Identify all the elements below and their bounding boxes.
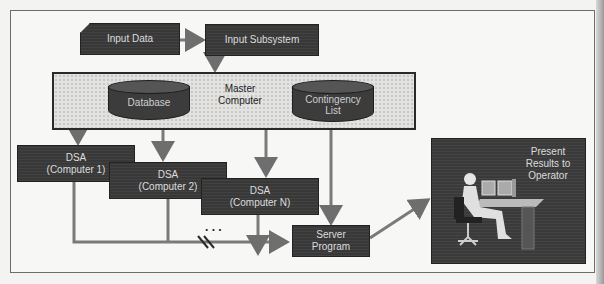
input-data-node: Input Data: [80, 23, 180, 55]
contingency-line1: Contingency: [292, 94, 374, 105]
server-line2: Program: [312, 241, 350, 253]
dsa1-line1: DSA: [66, 152, 87, 164]
dsa-computer-n-node: DSA (Computer N): [201, 178, 319, 215]
dsa1-line2: (Computer 1): [47, 164, 106, 176]
database-cylinder: Database: [108, 80, 190, 120]
dsa2-line1: DSA: [158, 169, 179, 181]
contingency-list-label: Contingency List: [292, 94, 374, 116]
operator-workstation-icon: [432, 139, 585, 263]
dsaN-line2: (Computer N): [230, 197, 291, 209]
dsa2-line2: (Computer 2): [139, 181, 198, 193]
operator-panel: Present Results to Operator: [431, 138, 586, 264]
contingency-line2: List: [292, 105, 374, 116]
ellipsis: . . .: [205, 220, 222, 234]
dsaN-line1: DSA: [250, 185, 271, 197]
contingency-list-cylinder: Contingency List: [292, 80, 374, 122]
master-line2: Computer: [205, 95, 275, 107]
master-computer-label: Master Computer: [205, 83, 275, 107]
input-subsystem-label: Input Subsystem: [225, 34, 299, 46]
input-subsystem-node: Input Subsystem: [205, 24, 319, 56]
master-line1: Master: [205, 83, 275, 95]
input-data-label: Input Data: [107, 33, 153, 45]
server-line1: Server: [316, 229, 345, 241]
server-program-node: Server Program: [292, 225, 370, 257]
database-label: Database: [108, 97, 190, 108]
